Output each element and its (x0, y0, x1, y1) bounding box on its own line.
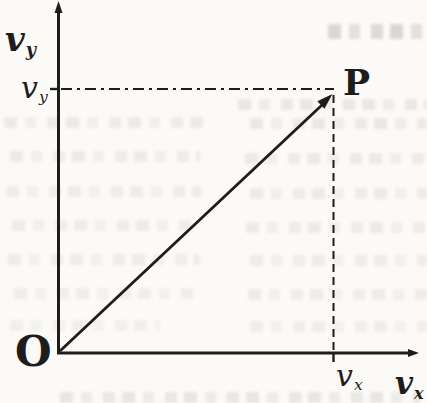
x-axis-label: vx (395, 368, 424, 399)
point-label: P (343, 64, 370, 100)
y-axis-label-subscript: y (26, 39, 36, 60)
y-axis-label-base: v (5, 19, 25, 59)
y-axis-arrowhead (55, 1, 63, 13)
y-component-base: v (21, 70, 38, 105)
vector-diagram-figure: vy vy P O vx vx (0, 0, 427, 403)
origin-label: O (15, 331, 52, 373)
x-axis-label-subscript: x (414, 384, 424, 403)
x-axis-label-base: v (395, 365, 413, 401)
vector-shaft (60, 105, 322, 351)
x-component-subscript: x (354, 376, 363, 394)
x-axis-arrowhead (408, 349, 419, 357)
y-component-label: vy (21, 73, 48, 103)
x-component-label: vx (336, 361, 363, 391)
y-axis-label: vy (5, 22, 36, 56)
y-component-subscript: y (39, 88, 48, 106)
x-component-base: v (336, 358, 353, 393)
